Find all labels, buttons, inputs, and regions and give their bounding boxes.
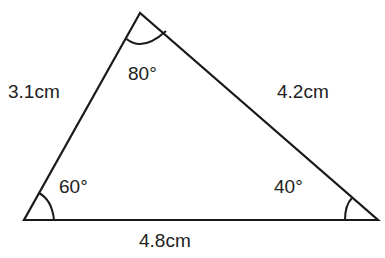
side-label-left: 3.1cm: [8, 81, 60, 102]
angle-label-bottom-left: 60°: [59, 176, 88, 197]
side-label-base: 4.8cm: [139, 230, 191, 251]
angle-arc-bottom-right: [345, 198, 352, 220]
angle-label-top: 80°: [128, 63, 157, 84]
angle-label-bottom-right: 40°: [274, 176, 303, 197]
angle-arc-top: [127, 31, 167, 44]
angle-arc-bottom-left: [39, 193, 54, 220]
triangle-diagram: 3.1cm 4.2cm 4.8cm 80° 60° 40°: [0, 0, 385, 258]
side-label-right: 4.2cm: [277, 81, 329, 102]
